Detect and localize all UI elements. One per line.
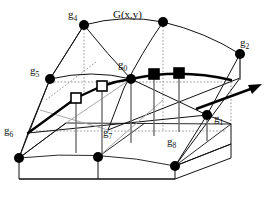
surface-cross-left-3 bbox=[50, 25, 84, 79]
marker-g2 bbox=[235, 49, 245, 59]
svg-text:g0: g0 bbox=[118, 58, 128, 73]
marker-g4 bbox=[79, 20, 89, 30]
surface-diagram: G(x,y) g4 g2 g0 g5 g6 g7 g8 g1 bbox=[0, 0, 271, 199]
base-right-lower bbox=[175, 144, 231, 179]
node-markers bbox=[14, 17, 245, 171]
marker-base-mid bbox=[93, 152, 103, 162]
node-label-g8: g8 bbox=[167, 135, 177, 150]
figure-container: G(x,y) g4 g2 g0 g5 g6 g7 g8 g1 bbox=[0, 0, 271, 199]
node-label-g8-sub: 8 bbox=[173, 141, 177, 150]
node-label-g2-sub: 2 bbox=[246, 42, 250, 51]
node-label-g2: g2 bbox=[240, 36, 250, 51]
bold-curve-lower-left bbox=[28, 79, 131, 133]
marker-base-right bbox=[170, 161, 180, 171]
marker-g5 bbox=[45, 74, 55, 84]
svg-text:g2: g2 bbox=[240, 36, 250, 51]
node-label-g5: g5 bbox=[30, 64, 40, 79]
node-label-g4-sub: 4 bbox=[74, 14, 78, 23]
svg-text:g6: g6 bbox=[4, 124, 14, 139]
marker-g1 bbox=[202, 110, 212, 120]
marker-g0 bbox=[126, 74, 136, 84]
svg-text:g7: g7 bbox=[103, 126, 113, 141]
upper-surface-mesh bbox=[19, 19, 240, 166]
node-label-g5-sub: 5 bbox=[36, 70, 40, 79]
ground-right-edge bbox=[175, 124, 231, 166]
node-label-g1-sub: 1 bbox=[220, 118, 224, 127]
marker-square-filled-2 bbox=[174, 68, 184, 78]
node-label-g0-sub: 0 bbox=[124, 64, 128, 73]
ground-grid bbox=[19, 123, 231, 166]
surface-cross-right-1 bbox=[175, 115, 207, 166]
node-label-g4: g4 bbox=[68, 8, 78, 23]
svg-text:g5: g5 bbox=[30, 64, 40, 79]
svg-text:g4: g4 bbox=[68, 8, 78, 23]
node-label-g6: g6 bbox=[4, 124, 14, 139]
marker-base-left bbox=[14, 153, 24, 163]
arrow-shaft bbox=[196, 87, 256, 109]
node-label-g7: g7 bbox=[103, 126, 113, 141]
direction-arrow bbox=[196, 84, 262, 109]
marker-square-open-1 bbox=[71, 93, 81, 103]
node-label-g7-sub: 7 bbox=[109, 132, 113, 141]
arrow-head-icon bbox=[248, 84, 262, 94]
surface-middle-curve bbox=[50, 74, 131, 79]
surface-faint-diagonal-3 bbox=[40, 110, 108, 130]
surface-title-label: G(x,y) bbox=[113, 8, 142, 21]
node-label-g0: g0 bbox=[118, 58, 128, 73]
marker-square-open-2 bbox=[97, 81, 107, 91]
node-label-g6-sub: 6 bbox=[10, 130, 14, 139]
marker-g3 bbox=[158, 17, 168, 27]
surface-g0-g1 bbox=[131, 79, 207, 115]
marker-square-filled-1 bbox=[149, 69, 159, 79]
svg-text:g8: g8 bbox=[167, 135, 177, 150]
